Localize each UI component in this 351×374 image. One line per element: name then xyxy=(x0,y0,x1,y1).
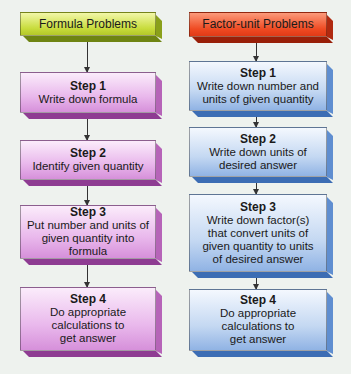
step-text: given quantity to units xyxy=(202,240,313,253)
arrow-down-icon xyxy=(256,117,257,127)
step-text: Write down factor(s) xyxy=(207,214,310,227)
step-text: Do appropriate xyxy=(220,307,296,320)
step-title: Step 2 xyxy=(70,147,106,160)
step-title: Step 2 xyxy=(240,133,276,146)
step-text: Write down formula xyxy=(39,93,138,106)
arrow-down-icon xyxy=(87,265,88,287)
formula-step-2: Step 2 Identify given quantity xyxy=(20,140,162,186)
step-text: Put number and units of xyxy=(27,219,149,232)
step-text: Write down number and xyxy=(197,80,319,93)
arrow-down-icon xyxy=(256,278,257,289)
factor-unit-step-1: Step 1 Write down number and units of gi… xyxy=(189,61,333,117)
step-title: Step 3 xyxy=(70,206,106,219)
arrow-down-icon xyxy=(87,42,88,72)
step-text: Do appropriate xyxy=(50,306,126,319)
step-text: desired answer xyxy=(219,159,297,172)
arrow-down-icon xyxy=(87,186,88,205)
step-text: calculations to xyxy=(222,320,295,333)
step-text: given quantity into formula xyxy=(24,232,152,258)
step-title: Step 4 xyxy=(240,294,276,307)
header-label: Factor-unit Problems xyxy=(202,18,313,31)
step-text: units of given quantity xyxy=(202,93,313,106)
factor-unit-problems-header: Factor-unit Problems xyxy=(189,12,333,43)
step-text: get answer xyxy=(60,332,116,345)
factor-unit-step-4: Step 4 Do appropriate calculations to ge… xyxy=(189,289,333,357)
step-title: Step 3 xyxy=(240,201,276,214)
arrow-down-icon xyxy=(256,43,257,61)
formula-problems-header: Formula Problems xyxy=(20,12,162,42)
arrow-down-icon xyxy=(256,183,257,194)
arrow-down-icon xyxy=(87,119,88,140)
formula-step-4: Step 4 Do appropriate calculations to ge… xyxy=(20,287,162,357)
step-title: Step 1 xyxy=(240,67,276,80)
step-text: Identify given quantity xyxy=(32,160,143,173)
formula-step-1: Step 1 Write down formula xyxy=(20,72,162,119)
step-text: calculations to xyxy=(52,319,125,332)
factor-unit-step-3: Step 3 Write down factor(s) that convert… xyxy=(189,194,333,278)
step-text: of desired answer xyxy=(213,253,304,266)
step-text: get answer xyxy=(230,333,286,346)
step-title: Step 4 xyxy=(70,293,106,306)
step-text: that convert units of xyxy=(208,227,308,240)
formula-step-3: Step 3 Put number and units of given qua… xyxy=(20,205,162,265)
step-title: Step 1 xyxy=(70,80,106,93)
step-text: Write down units of xyxy=(209,146,307,159)
header-label: Formula Problems xyxy=(39,18,137,31)
factor-unit-step-2: Step 2 Write down units of desired answe… xyxy=(189,127,333,183)
